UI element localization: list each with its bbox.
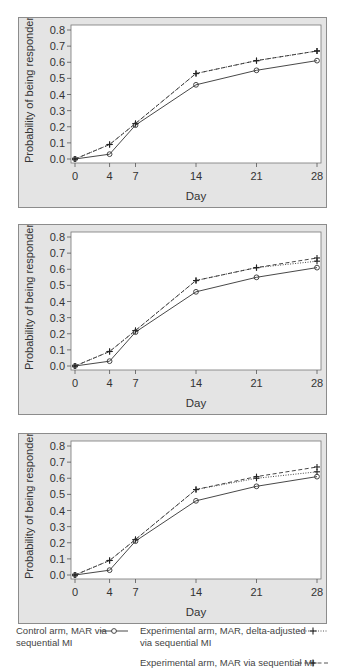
y-tick-label: 0.4 [50, 505, 65, 517]
y-tick-label: 0.8 [50, 231, 65, 243]
plot-area [71, 25, 321, 163]
plot-area [71, 232, 321, 370]
y-tick-label: 0.2 [50, 328, 65, 340]
legend-delta-line1: Experimental arm, MAR, delta-adjusted [140, 625, 306, 637]
y-tick-label: 0.0 [50, 360, 65, 372]
x-tick-label: 28 [311, 586, 323, 598]
y-tick-label: 0.2 [50, 537, 65, 549]
x-tick-label: 21 [250, 170, 262, 182]
y-tick-label: 0.6 [50, 56, 65, 68]
y-tick-label: 0.8 [50, 440, 65, 452]
x-axis-label: Day [186, 190, 207, 202]
legend-delta-symbol-icon [296, 626, 330, 636]
y-tick-label: 0.5 [50, 279, 65, 291]
x-tick-label: 0 [72, 170, 78, 182]
y-tick-label: 0.8 [50, 24, 65, 36]
y-tick-label: 0.5 [50, 72, 65, 84]
y-tick-label: 0.5 [50, 488, 65, 500]
y-tick-label: 0.6 [50, 472, 65, 484]
x-tick-label: 21 [250, 377, 262, 389]
y-tick-label: 0.1 [50, 553, 65, 565]
legend-delta-label: Experimental arm, MAR, delta-adjusted vi… [140, 625, 306, 649]
y-tick-label: 0.3 [50, 312, 65, 324]
x-axis-label: Day [186, 397, 207, 409]
y-tick-label: 0.3 [50, 105, 65, 117]
x-tick-label: 14 [190, 170, 202, 182]
x-tick-label: 4 [107, 377, 113, 389]
plot-area [71, 441, 321, 579]
x-tick-label: 7 [132, 377, 138, 389]
legend-mar-label: Experimental arm, MAR via sequential MI [140, 657, 315, 669]
x-tick-label: 4 [107, 586, 113, 598]
x-tick-label: 7 [132, 586, 138, 598]
y-tick-label: 0.1 [50, 344, 65, 356]
y-axis-label: Probability of being responder [23, 18, 35, 163]
x-tick-label: 14 [190, 377, 202, 389]
x-tick-label: 0 [72, 377, 78, 389]
y-tick-label: 0.0 [50, 153, 65, 165]
legend-delta-line2: via sequential MI [140, 637, 306, 649]
y-tick-label: 0.2 [50, 121, 65, 133]
x-tick-label: 4 [107, 170, 113, 182]
y-tick-label: 0.7 [50, 456, 65, 468]
y-axis-label: Probability of being responder [23, 434, 35, 579]
chart-panel-1: 0.00.10.20.30.40.50.60.70.8047142128DayP… [18, 17, 327, 208]
y-tick-label: 0.7 [50, 40, 65, 52]
x-tick-label: 21 [250, 586, 262, 598]
y-tick-label: 0.0 [50, 569, 65, 581]
legend-control-label: Control arm, MAR via sequential MI [16, 625, 107, 649]
x-tick-label: 0 [72, 586, 78, 598]
chart-svg-1: 0.00.10.20.30.40.50.60.70.8047142128DayP… [19, 18, 328, 209]
y-tick-label: 0.1 [50, 137, 65, 149]
chart-svg-2: 0.00.10.20.30.40.50.60.70.8047142128DayP… [19, 225, 328, 416]
y-tick-label: 0.3 [50, 521, 65, 533]
x-axis-label: Day [186, 606, 207, 618]
x-tick-label: 28 [311, 170, 323, 182]
x-tick-label: 7 [132, 170, 138, 182]
y-tick-label: 0.4 [50, 296, 65, 308]
chart-panel-3: 0.00.10.20.30.40.50.60.70.8047142128DayP… [18, 433, 327, 624]
y-tick-label: 0.7 [50, 247, 65, 259]
y-axis-label: Probability of being responder [23, 225, 35, 370]
y-tick-label: 0.6 [50, 263, 65, 275]
x-tick-label: 28 [311, 377, 323, 389]
legend-mar-line1: Experimental arm, MAR via sequential MI [140, 657, 315, 669]
x-tick-label: 14 [190, 586, 202, 598]
chart-svg-3: 0.00.10.20.30.40.50.60.70.8047142128DayP… [19, 434, 328, 625]
legend-control-line2: sequential MI [16, 637, 107, 649]
legend-control-symbol-icon [98, 626, 130, 636]
legend-mar-symbol-icon [296, 658, 330, 668]
legend-control-line1: Control arm, MAR via [16, 625, 107, 637]
y-tick-label: 0.4 [50, 89, 65, 101]
chart-panel-2: 0.00.10.20.30.40.50.60.70.8047142128DayP… [18, 224, 327, 415]
